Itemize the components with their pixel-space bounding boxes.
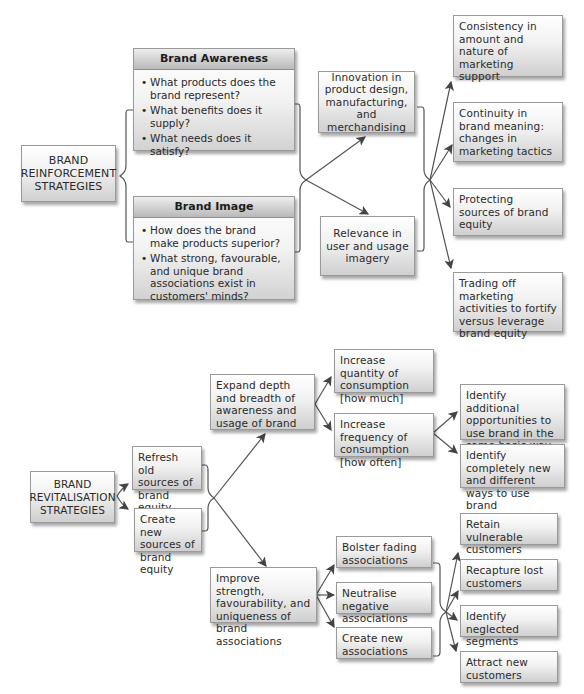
identify-additional-box: Identify additional opportunities to use… xyxy=(460,384,565,440)
create-sources-box: Create new sources of brand equity xyxy=(134,508,202,552)
increase-frequency-box: Increase frequency of consumption [how o… xyxy=(334,413,434,457)
identify-new-ways-box: Identify completely new and different wa… xyxy=(460,444,565,488)
protecting-sources-box: Protecting sources of brand equity xyxy=(453,188,563,236)
refresh-sources-box: Refresh old sources of brand equity xyxy=(132,446,202,490)
brand-awareness-panel: Brand Awareness What products does the b… xyxy=(133,48,295,151)
create-new-associations-box: Create new associations xyxy=(336,627,432,659)
list-item: How does the brand make products superio… xyxy=(150,224,288,249)
innovation-box: Innovation in product design, manufactur… xyxy=(318,71,415,133)
revitalisation-root-box: BRAND REVITALISATION STRATEGIES xyxy=(30,471,115,523)
attract-customers-box: Attract new customers xyxy=(460,651,558,683)
improve-strength-box: Improve strength, favourability, and uni… xyxy=(210,567,317,623)
brand-image-title: Brand Image xyxy=(134,197,294,218)
increase-quantity-box: Increase quantity of consumption [how mu… xyxy=(334,349,434,393)
continuity-box: Continuity in brand meaning: changes in … xyxy=(453,102,563,162)
brand-image-panel: Brand Image How does the brand make prod… xyxy=(133,196,295,300)
list-item: What strong, favourable, and unique bran… xyxy=(150,252,288,302)
list-item: What needs does it satisfy? xyxy=(150,132,288,157)
brand-image-list: How does the brand make products superio… xyxy=(134,218,294,303)
neutralise-negative-box: Neutralise negative associations xyxy=(336,582,432,614)
list-item: What benefits does it supply? xyxy=(150,104,288,129)
consistency-box: Consistency in amount and nature of mark… xyxy=(453,15,563,77)
brand-awareness-list: What products does the brand represent? … xyxy=(134,70,294,158)
expand-depth-box: Expand depth and breadth of awareness an… xyxy=(210,374,315,430)
trading-off-box: Trading off marketing activities to fort… xyxy=(453,272,563,332)
reinforcement-root-box: BRAND REINFORCEMENT STRATEGIES xyxy=(21,145,116,202)
recapture-customers-box: Recapture lost customers xyxy=(460,559,558,591)
bolster-fading-box: Bolster fading associations xyxy=(336,536,432,568)
list-item: What products does the brand represent? xyxy=(150,76,288,101)
brand-awareness-title: Brand Awareness xyxy=(134,49,294,70)
relevance-box: Relevance in user and usage imagery xyxy=(320,216,415,276)
retain-customers-box: Retain vulnerable customers xyxy=(460,513,558,545)
neglected-segments-box: Identify neglected segments xyxy=(460,605,558,637)
